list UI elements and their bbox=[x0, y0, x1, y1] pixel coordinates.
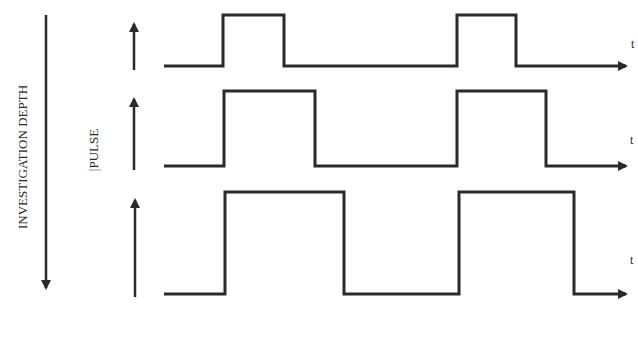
pulse-diagram: INVESTIGATION DEPTH |PULSE t t t bbox=[0, 0, 638, 341]
pulse-row-shallow: t bbox=[134, 15, 635, 70]
time-axis-label: t bbox=[630, 133, 634, 147]
pulse-waveform bbox=[164, 15, 626, 66]
pulse-axis-label: |PULSE bbox=[86, 129, 101, 171]
pulse-row-deep: t bbox=[135, 192, 634, 297]
pulse-row-middle: t bbox=[134, 91, 634, 170]
time-axis-label: t bbox=[630, 253, 634, 267]
time-axis-label: t bbox=[631, 37, 635, 51]
depth-axis-label: INVESTIGATION DEPTH bbox=[15, 85, 30, 229]
pulse-waveform bbox=[164, 91, 626, 166]
pulse-waveform bbox=[164, 192, 626, 294]
